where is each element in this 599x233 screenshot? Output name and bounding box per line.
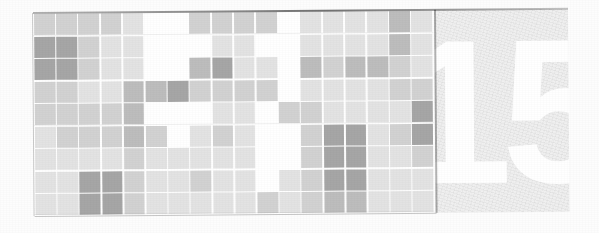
heatmap-cell xyxy=(56,36,77,57)
heatmap-cell xyxy=(168,80,189,101)
heatmap-cell xyxy=(412,78,433,99)
heatmap-cell xyxy=(390,101,411,122)
heatmap-grid xyxy=(33,10,435,216)
heatmap-cell xyxy=(323,102,344,123)
scan-surface: 15 xyxy=(0,0,599,233)
chapter-opener-banner: 15 xyxy=(33,9,570,216)
heatmap-cell xyxy=(191,170,212,191)
heatmap-cell xyxy=(35,126,56,147)
heatmap-cell xyxy=(123,103,144,124)
heatmap-cell xyxy=(346,169,367,190)
heatmap-cell xyxy=(57,59,78,80)
heatmap-cell xyxy=(234,102,255,123)
heatmap-cell xyxy=(80,171,101,192)
heatmap-cell xyxy=(35,171,56,192)
heatmap-cell xyxy=(101,36,122,57)
heatmap-cell xyxy=(278,12,299,33)
heatmap-cell xyxy=(257,125,278,146)
heatmap-cell xyxy=(367,34,388,55)
heatmap-cell xyxy=(279,147,300,168)
heatmap-cell xyxy=(301,79,322,100)
heatmap-cell xyxy=(278,57,299,78)
heatmap-cell xyxy=(190,35,211,56)
heatmap-cell xyxy=(190,103,211,124)
heatmap-panel xyxy=(33,10,435,216)
heatmap-cell xyxy=(345,11,366,32)
heatmap-cell xyxy=(324,169,345,190)
heatmap-cell xyxy=(368,124,389,145)
heatmap-cell xyxy=(101,103,122,124)
heatmap-cell xyxy=(345,56,366,77)
heatmap-cell xyxy=(257,170,278,191)
heatmap-cell xyxy=(390,124,411,145)
heatmap-cell xyxy=(190,58,211,79)
heatmap-cell xyxy=(213,170,234,191)
heatmap-cell xyxy=(368,146,389,167)
heatmap-cell xyxy=(411,33,432,54)
heatmap-cell xyxy=(167,13,188,34)
heatmap-cell xyxy=(256,12,277,33)
heatmap-cell xyxy=(346,146,367,167)
heatmap-cell xyxy=(389,56,410,77)
heatmap-cell xyxy=(102,148,123,169)
heatmap-cell xyxy=(212,102,233,123)
heatmap-cell xyxy=(191,193,212,214)
heatmap-cell xyxy=(190,148,211,169)
heatmap-cell xyxy=(79,81,100,102)
heatmap-cell xyxy=(324,192,345,213)
heatmap-cell xyxy=(413,191,434,212)
heatmap-cell xyxy=(34,14,55,35)
heatmap-cell xyxy=(301,124,322,145)
heatmap-cell xyxy=(168,58,189,79)
heatmap-cell xyxy=(146,148,167,169)
heatmap-cell xyxy=(257,102,278,123)
heatmap-cell xyxy=(57,81,78,102)
heatmap-cell xyxy=(234,57,255,78)
heatmap-cell xyxy=(391,191,412,212)
heatmap-cell xyxy=(124,193,145,214)
heatmap-cell xyxy=(101,13,122,34)
heatmap-cell xyxy=(389,11,410,32)
heatmap-cell xyxy=(168,103,189,124)
heatmap-cell xyxy=(412,123,433,144)
heatmap-cell xyxy=(235,125,256,146)
heatmap-cell xyxy=(213,147,234,168)
heatmap-cell xyxy=(413,168,434,189)
heatmap-cell xyxy=(390,146,411,167)
heatmap-cell xyxy=(367,11,388,32)
heatmap-cell xyxy=(102,193,123,214)
heatmap-cell xyxy=(279,124,300,145)
heatmap-cell xyxy=(412,56,433,77)
heatmap-cell xyxy=(279,79,300,100)
heatmap-cell xyxy=(279,169,300,190)
heatmap-cell xyxy=(234,35,255,56)
heatmap-cell xyxy=(79,148,100,169)
heatmap-cell xyxy=(256,80,277,101)
chapter-number: 15 xyxy=(434,30,570,192)
chapter-number-panel: 15 xyxy=(434,9,570,213)
heatmap-cell xyxy=(56,14,77,35)
heatmap-cell xyxy=(123,58,144,79)
heatmap-cell xyxy=(34,36,55,57)
heatmap-cell xyxy=(124,148,145,169)
heatmap-cell xyxy=(301,57,322,78)
heatmap-cell xyxy=(412,101,433,122)
heatmap-cell xyxy=(101,126,122,147)
heatmap-cell xyxy=(257,147,278,168)
heatmap-cell xyxy=(79,36,100,57)
heatmap-cell xyxy=(368,169,389,190)
heatmap-cell xyxy=(124,171,145,192)
heatmap-cell xyxy=(168,170,189,191)
heatmap-cell xyxy=(235,192,256,213)
heatmap-cell xyxy=(411,11,432,32)
heatmap-cell xyxy=(279,102,300,123)
heatmap-cell xyxy=(34,59,55,80)
heatmap-cell xyxy=(212,57,233,78)
heatmap-cell xyxy=(101,58,122,79)
heatmap-cell xyxy=(146,103,167,124)
heatmap-cell xyxy=(124,126,145,147)
heatmap-cell xyxy=(35,104,56,125)
heatmap-cell xyxy=(346,124,367,145)
heatmap-cell xyxy=(190,125,211,146)
heatmap-cell xyxy=(301,147,322,168)
